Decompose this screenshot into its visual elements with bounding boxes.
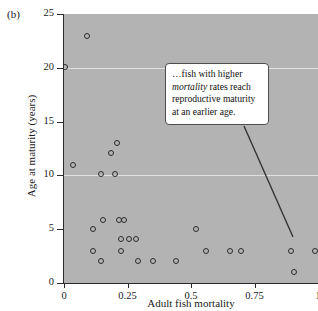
data-point <box>227 248 233 254</box>
data-point <box>312 248 318 254</box>
y-tick-label: 25 <box>36 7 54 18</box>
data-point <box>121 217 127 223</box>
y-tick <box>57 68 63 69</box>
data-point <box>135 258 141 264</box>
data-point <box>64 64 68 70</box>
data-point <box>288 248 294 254</box>
callout-text-before: …fish with higher <box>172 68 242 79</box>
y-tick <box>57 283 63 284</box>
y-tick-label: 5 <box>36 222 54 233</box>
y-tick <box>57 175 63 176</box>
y-tick <box>57 122 63 123</box>
figure-panel-b: (b) 0510152025 00.250.50.751 Age at matu… <box>0 0 318 311</box>
y-tick <box>57 229 63 230</box>
x-tick <box>191 283 192 288</box>
data-point <box>112 171 118 177</box>
x-axis-title: Adult fish mortality <box>64 297 318 309</box>
data-point <box>118 236 124 242</box>
data-point <box>150 258 156 264</box>
data-point <box>291 269 297 275</box>
panel-label: (b) <box>7 8 20 20</box>
y-tick-label: 0 <box>36 276 54 287</box>
y-axis-title: Age at maturity (years) <box>25 51 37 241</box>
data-point <box>114 140 120 146</box>
y-tick <box>57 14 63 15</box>
y-tick-label: 15 <box>36 115 54 126</box>
x-tick <box>64 283 65 288</box>
callout-emphasis: mortality <box>172 81 207 92</box>
data-point <box>98 258 104 264</box>
data-point <box>90 248 96 254</box>
data-point <box>193 226 199 232</box>
data-point <box>238 248 244 254</box>
y-tick-label: 20 <box>36 61 54 72</box>
data-point <box>70 162 76 168</box>
data-point <box>118 248 124 254</box>
data-point <box>133 236 139 242</box>
y-axis-line <box>63 14 64 284</box>
annotation-callout: …fish with higher mortality rates reach … <box>165 63 269 125</box>
y-tick-label: 10 <box>36 168 54 179</box>
data-point <box>173 258 179 264</box>
data-point <box>100 217 106 223</box>
data-point <box>126 236 132 242</box>
x-tick <box>255 283 256 288</box>
plot-area <box>64 14 318 283</box>
x-tick <box>128 283 129 288</box>
data-point <box>98 171 104 177</box>
data-point <box>84 33 90 39</box>
data-point <box>90 226 96 232</box>
data-point <box>108 150 114 156</box>
data-point <box>203 248 209 254</box>
